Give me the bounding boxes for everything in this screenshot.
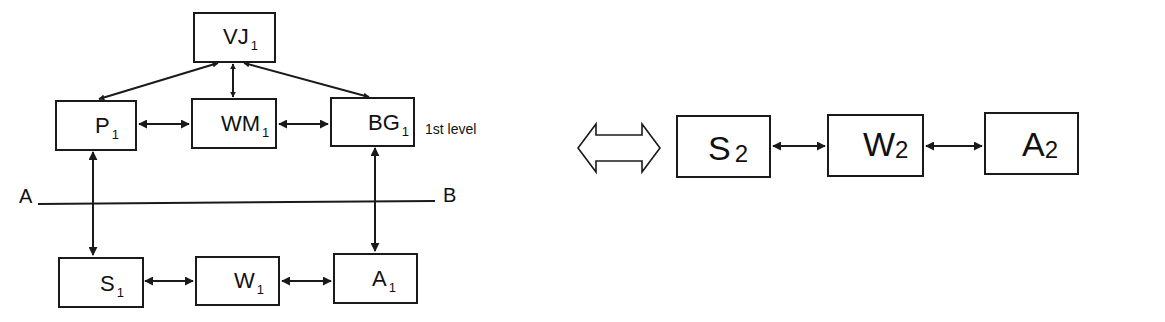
node-label: A2	[1022, 127, 1058, 162]
node-a1: A1	[333, 253, 418, 304]
node-p1: P1	[55, 100, 137, 151]
node-bg1: BG1	[330, 97, 415, 147]
node-label: P1	[95, 115, 119, 141]
node-vj1: VJ1	[193, 12, 276, 63]
node-label: W2	[863, 127, 908, 162]
node-w1: W1	[195, 256, 280, 306]
node-a2: A2	[984, 112, 1079, 175]
edge-vj1-p1	[99, 63, 218, 99]
node-s1: S1	[58, 257, 144, 308]
node-label: WM1	[221, 113, 269, 139]
edge-vj1-bg1	[244, 63, 369, 97]
node-wm1: WM1	[191, 98, 277, 149]
node-label: BG1	[368, 112, 409, 138]
node-s2: S2	[676, 115, 771, 178]
divider-label-a: A	[19, 186, 32, 206]
node-label: S2	[708, 131, 748, 166]
node-label: S1	[100, 273, 124, 299]
node-label: A1	[372, 268, 396, 294]
node-w2: W2	[827, 114, 924, 177]
divider-label-b: B	[443, 185, 456, 205]
equivalence-double-arrow-icon	[578, 124, 660, 172]
node-label: W1	[234, 270, 264, 296]
level-label: 1st level	[425, 122, 476, 136]
node-label: VJ1	[223, 26, 258, 52]
